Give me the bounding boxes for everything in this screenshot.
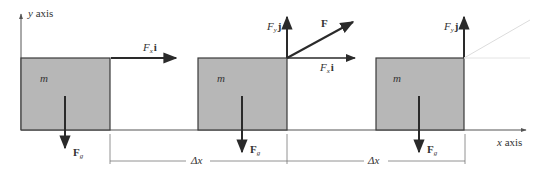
- y-axis-label: y axis: [27, 7, 53, 19]
- displacement-2: Δx: [287, 154, 465, 166]
- force-y-label: Fyj: [266, 20, 282, 34]
- force-x-label: Fxi: [319, 61, 334, 75]
- mass-label: m: [40, 72, 48, 84]
- block-1: m Fg Fxi: [21, 41, 176, 160]
- x-axis: x axis: [21, 130, 526, 148]
- force-diagram: y axis x axis m Fg Fxi m Fg Fyj F: [0, 0, 544, 171]
- delta-x-label: Δx: [190, 154, 202, 166]
- delta-x-label: Δx: [367, 154, 379, 166]
- faint-resultant-line: [464, 20, 530, 58]
- force-x-label: Fxi: [142, 41, 157, 55]
- mass-label: m: [393, 72, 401, 84]
- weight-label: Fg: [73, 146, 84, 160]
- block-2: m Fg Fyj F Fxi: [198, 17, 355, 157]
- resultant-force-label: F: [321, 17, 328, 29]
- displacement-1: Δx: [110, 154, 287, 166]
- displacement-dimensions: Δx Δx: [110, 134, 465, 166]
- weight-label: Fg: [250, 143, 261, 157]
- weight-label: Fg: [427, 143, 438, 157]
- mass-label: m: [217, 72, 225, 84]
- x-axis-label: x axis: [496, 136, 522, 148]
- resultant-force-arrow: [287, 22, 353, 58]
- force-y-label: Fyj: [443, 20, 459, 34]
